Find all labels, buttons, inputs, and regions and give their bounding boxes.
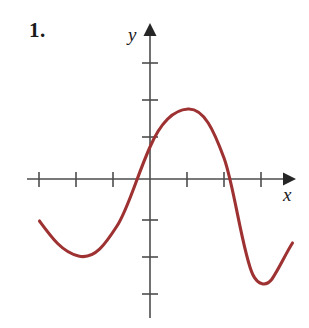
curve-path	[40, 109, 293, 284]
y-axis-arrow-icon	[144, 23, 157, 36]
x-axis-arrow-icon	[283, 173, 296, 186]
plot-area	[0, 0, 309, 328]
figure-container: 1. y x	[0, 0, 309, 328]
